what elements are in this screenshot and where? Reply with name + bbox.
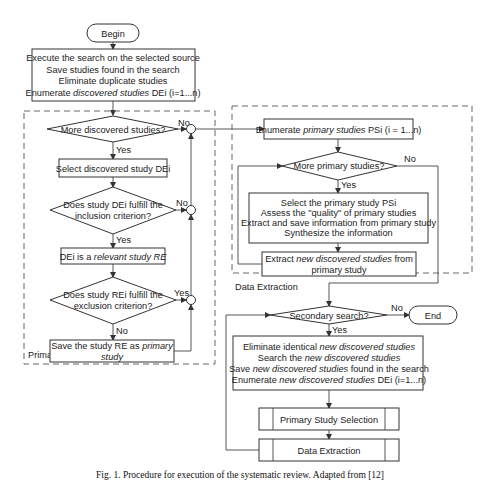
svg-text:Save new discovered studies fo: Save new discovered studies found in the… — [229, 364, 429, 374]
save-primary-box: Save the study RE as primary study — [50, 340, 174, 362]
svg-text:Save studies found in the sear: Save studies found in the search — [46, 65, 179, 75]
svg-text:Select the primary study PSi: Select the primary study PSi — [281, 198, 396, 208]
svg-text:Yes: Yes — [116, 235, 131, 245]
svg-text:Does study REi fulfill the: Does study REi fulfill the — [63, 290, 163, 300]
svg-text:Primary Study Selection: Primary Study Selection — [280, 415, 378, 425]
svg-text:Data Extraction: Data Extraction — [298, 446, 361, 456]
svg-text:exclusion criterion?: exclusion criterion? — [74, 301, 153, 311]
svg-text:Begin: Begin — [101, 29, 125, 39]
subprocess-data-extraction: Data Extraction — [259, 439, 399, 461]
svg-text:No: No — [404, 154, 416, 164]
secondary-process-box: Eliminate identical new discovered studi… — [229, 336, 429, 390]
svg-text:Extract new discovered studies: Extract new discovered studies from — [265, 254, 413, 264]
svg-text:Eliminate duplicate studies: Eliminate duplicate studies — [59, 76, 168, 86]
start-process-box: Execute the search on the selected sourc… — [26, 49, 201, 101]
svg-text:Does study DEi fulfill the: Does study DEi fulfill the — [63, 200, 163, 210]
decision-exclusion: Does study REi fulfill the exclusion cri… — [50, 277, 176, 324]
decision-more-discovered: More discovered studies? — [47, 116, 178, 142]
decision-more-primary: More primary studies? — [282, 152, 397, 180]
svg-text:Extract and save information f: Extract and save information from primar… — [241, 218, 436, 228]
svg-text:study: study — [101, 352, 124, 362]
svg-text:Yes: Yes — [116, 145, 131, 155]
figure-caption: Fig. 1. Procedure for execution of the s… — [96, 470, 384, 480]
enumerate-primary-box: Enumerate primary studies PSi (i = 1...n… — [256, 119, 422, 139]
begin-terminal: Begin — [87, 24, 139, 42]
end-terminal: End — [409, 306, 457, 324]
svg-text:End: End — [425, 311, 441, 321]
junction-2 — [187, 206, 196, 215]
svg-text:Assess the "quality" of primar: Assess the "quality" of primary studies — [261, 208, 417, 218]
svg-text:More discovered studies?: More discovered studies? — [61, 125, 166, 135]
relevant-study-box: DEi is a relevant study RE — [60, 248, 168, 264]
svg-text:Enumerate discovered studies D: Enumerate discovered studies DEi (i=1...… — [26, 88, 201, 98]
svg-text:Execute the search on the sele: Execute the search on the selected sourc… — [26, 53, 200, 63]
svg-text:Yes: Yes — [332, 325, 347, 335]
junction-3 — [187, 296, 196, 305]
process-primary-box: Select the primary study PSi Assess the … — [241, 193, 436, 243]
svg-text:Select discovered study DEi: Select discovered study DEi — [56, 164, 170, 174]
select-discovered-box: Select discovered study DEi — [56, 159, 170, 177]
svg-text:More primary studies?: More primary studies? — [294, 161, 385, 171]
svg-text:No: No — [391, 303, 403, 313]
svg-text:Search the new discovered stud: Search the new discovered studies — [258, 353, 401, 363]
svg-text:Synthesize the information: Synthesize the information — [284, 228, 392, 238]
extract-new-discovered-box: Extract new discovered studies from prim… — [262, 252, 416, 276]
data-extraction-label: Data Extraction — [235, 282, 298, 292]
junction-1 — [187, 125, 196, 134]
svg-text:Eliminate identical new discov: Eliminate identical new discovered studi… — [243, 342, 416, 352]
svg-text:primary study: primary study — [311, 265, 367, 275]
flowchart: Begin Execute the search on the selected… — [0, 0, 481, 480]
subprocess-primary-study-selection: Primary Study Selection — [259, 408, 399, 430]
svg-text:inclusion criterion?: inclusion criterion? — [75, 211, 151, 221]
svg-text:Save the study RE as primary: Save the study RE as primary — [51, 341, 174, 351]
svg-text:No: No — [176, 198, 188, 208]
svg-text:Enumerate primary studies PSi: Enumerate primary studies PSi (i = 1...n… — [256, 125, 422, 135]
svg-text:Secondary search?: Secondary search? — [289, 311, 368, 321]
svg-text:Enumerate new discovered studi: Enumerate new discovered studies DEi (i=… — [232, 375, 426, 385]
decision-secondary-search: Secondary search? — [270, 306, 387, 324]
svg-text:Yes: Yes — [341, 180, 356, 190]
decision-inclusion: Does study DEi fulfill the inclusion cri… — [50, 187, 176, 234]
svg-text:No: No — [116, 326, 128, 336]
svg-text:Yes: Yes — [174, 288, 189, 298]
svg-text:DEi is a relevant study RE: DEi is a relevant study RE — [60, 252, 168, 262]
